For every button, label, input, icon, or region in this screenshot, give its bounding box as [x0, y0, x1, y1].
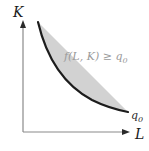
isoquant-figure: f(L, K) ≥ q0 K L q0 [0, 0, 149, 151]
upper-contour-region [38, 22, 128, 112]
labor-axis-label: L [134, 126, 144, 142]
isoquant-level-subscript: 0 [138, 115, 143, 124]
isoquant-level-main: q [131, 109, 138, 122]
labor-axis-arrow-icon [122, 129, 130, 135]
isoquant-level-label: q0 [131, 109, 143, 124]
isoquant-diagram: f(L, K) ≥ q0 K L q0 [0, 0, 149, 151]
capital-axis-arrow-icon [20, 20, 26, 28]
region-label: f(L, K) ≥ q0 [63, 50, 128, 65]
capital-axis-label: K [12, 4, 25, 20]
region-label-main: f(L, K) ≥ q [63, 50, 122, 63]
region-label-subscript: 0 [122, 56, 127, 65]
